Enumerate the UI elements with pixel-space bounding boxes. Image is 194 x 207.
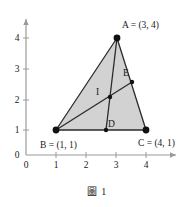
point-label-b: B = (1, 1) bbox=[40, 140, 77, 151]
point-label-d: D bbox=[108, 119, 115, 129]
point-label-a: A = (3, 4) bbox=[122, 20, 159, 31]
x-tick-label-1: 1 bbox=[54, 160, 59, 170]
x-tick-label-0: 0 bbox=[24, 160, 29, 170]
arrow-up-icon bbox=[23, 19, 28, 25]
y-tick-label-1: 1 bbox=[15, 125, 20, 135]
point-i-marker bbox=[108, 95, 112, 99]
point-label-c: C = (4, 1) bbox=[138, 138, 175, 149]
point-e-marker bbox=[130, 80, 134, 84]
point-label-i: I bbox=[96, 87, 99, 97]
x-tick-label-4: 4 bbox=[144, 160, 149, 170]
y-tick-label-3: 3 bbox=[15, 64, 20, 74]
y-tick-label-2: 2 bbox=[15, 95, 20, 105]
x-tick-label-3: 3 bbox=[114, 160, 119, 170]
x-tick-label-2: 2 bbox=[84, 160, 89, 170]
y-tick-label-0: 0 bbox=[15, 150, 20, 160]
y-tick-label-4: 4 bbox=[15, 33, 20, 43]
geometry-diagram: 0 1 2 3 4 0 1 2 3 4 A = (3, 4) B = (1, 1… bbox=[0, 0, 194, 207]
figure-container: 0 1 2 3 4 0 1 2 3 4 A = (3, 4) B = (1, 1… bbox=[0, 0, 194, 207]
arrow-right-icon bbox=[170, 152, 176, 157]
point-c-marker bbox=[143, 127, 150, 134]
point-label-e: E bbox=[123, 68, 129, 78]
point-a-marker bbox=[114, 35, 121, 42]
point-b-marker bbox=[53, 127, 60, 134]
figure-caption: 圖 1 bbox=[0, 183, 194, 198]
